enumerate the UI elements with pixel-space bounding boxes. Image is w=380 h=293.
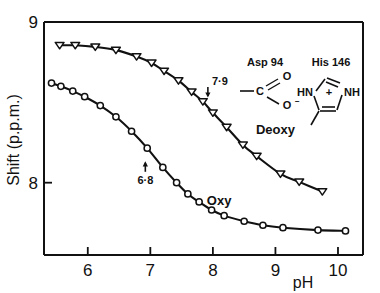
aspartate-title: Asp 94 [247,56,284,68]
aspartate-carbon-label: C [256,85,264,97]
aspartate-oxygen-double-label: O [283,70,292,82]
data-point-marker [144,145,150,151]
aspartate-oxygen-anion-label: O [283,99,292,111]
data-point-marker [315,227,321,233]
data-point-marker [128,128,134,134]
data-point-marker [97,102,103,108]
y-tick-label: 9 [29,13,38,32]
data-point-marker [185,191,191,197]
data-point-marker [48,80,54,86]
data-point-marker [82,94,88,100]
histidine-charge-label: + [326,86,332,98]
series-label-deoxy: Deoxy [256,122,296,137]
histidine-title: His 146 [312,56,351,68]
aspartate-charge-label: − [295,97,300,106]
x-axis-title: pH [293,274,313,291]
data-point-marker [58,83,64,89]
x-tick-label: 6 [83,261,92,280]
ph-titration-chart: 678910 89 DeoxyOxy 7·96·8 pH Shift (p.p.… [0,0,380,293]
histidine-nitrogen-left-label: HN [297,86,313,98]
data-point-marker [241,218,247,224]
data-point-marker [70,88,76,94]
data-point-marker [260,222,266,228]
x-tick-label: 10 [329,261,348,280]
y-tick-label: 8 [29,174,38,193]
annotation-label: 6·8 [137,174,153,186]
x-tick-label: 7 [146,261,155,280]
data-point-marker [113,114,119,120]
annotation-label: 7·9 [212,75,228,87]
series-label-oxy: Oxy [207,193,232,208]
x-tick-label: 9 [271,261,280,280]
data-point-marker [196,199,202,205]
y-axis-title: Shift (p.p.m.) [5,94,22,186]
x-tick-label: 8 [208,261,217,280]
data-point-marker [342,228,348,234]
data-point-marker [221,213,227,219]
data-point-marker [160,164,166,170]
data-point-marker [280,225,286,231]
data-point-marker [174,180,180,186]
histidine-nitrogen-right-label: NH [344,86,360,98]
